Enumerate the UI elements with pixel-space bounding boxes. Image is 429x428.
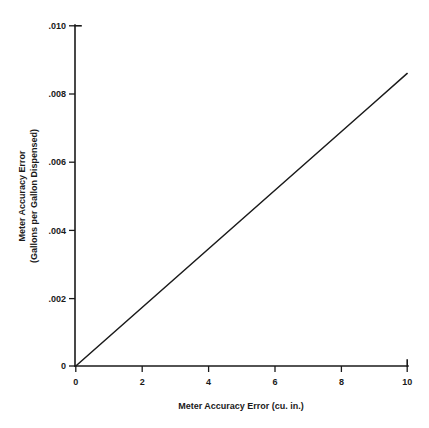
y-tick-label-3: .006	[48, 157, 66, 167]
y-axis-title-line1: Meter Accuracy Error	[17, 150, 27, 242]
line-chart: .010 .008 .006 .004 .002 0 0 2 4 6 8 10	[0, 0, 429, 428]
y-tick-label-0: 0	[61, 361, 66, 371]
y-axis-title-line2: (Gallons per Gallon Dispensed)	[29, 129, 39, 263]
y-tick-label-5: .010	[48, 21, 66, 31]
x-tick-label-2: 4	[206, 377, 211, 387]
chart-page: .010 .008 .006 .004 .002 0 0 2 4 6 8 10	[0, 0, 429, 428]
y-tick-label-2: .004	[48, 226, 66, 236]
x-tick-label-3: 6	[272, 377, 277, 387]
x-tick-label-4: 8	[339, 377, 344, 387]
x-tick-label-0: 0	[73, 377, 78, 387]
y-tick-label-1: .002	[48, 294, 66, 304]
y-tick-label-4: .008	[48, 89, 66, 99]
x-tick-label-5: 10	[402, 377, 412, 387]
x-tick-label-1: 2	[140, 377, 145, 387]
x-axis-title: Meter Accuracy Error (cu. in.)	[178, 401, 304, 411]
